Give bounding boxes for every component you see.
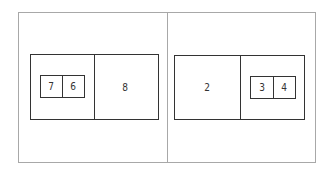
right-small-box-split [273, 76, 274, 99]
box-label-8: 8 [122, 83, 128, 93]
left-big-box-split [94, 54, 95, 120]
box-label-3: 3 [259, 83, 265, 93]
box-label-2: 2 [204, 83, 210, 93]
left-small-box-split [62, 75, 63, 98]
right-big-box-split [240, 55, 241, 120]
panel-divider [167, 12, 168, 163]
box-label-6: 6 [70, 82, 76, 92]
box-label-4: 4 [281, 83, 287, 93]
box-label-7: 7 [48, 82, 54, 92]
